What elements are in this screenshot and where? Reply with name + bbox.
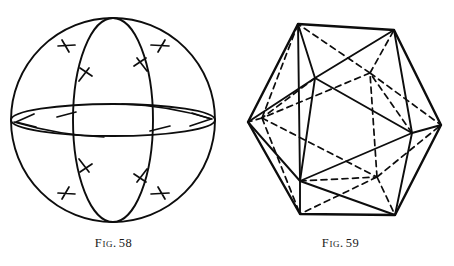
icosahedron-visible-edges [248, 24, 441, 215]
figure-59-caption-number: 59 [344, 236, 359, 250]
tick-outline-upper-left [58, 40, 75, 52]
figure-58-caption-number: 58 [117, 236, 132, 250]
visible-edge-front-1 [315, 78, 412, 133]
hidden-edge-f2-b1 [370, 73, 412, 133]
figure-58: Fig.58 [0, 0, 227, 266]
tick-outline-lower-right [151, 187, 169, 199]
sphere-meridian-ellipse [73, 18, 153, 222]
sphere-tick-group-equator [16, 112, 211, 131]
figure-58-caption: Fig.58 [0, 236, 227, 251]
tick-meridian-upper-left [79, 68, 92, 81]
visible-edge-f2-v2 [394, 30, 412, 133]
icosahedron-hidden-edges [248, 24, 441, 215]
hidden-edge-back-3 [370, 73, 377, 177]
tick-equator-right-arrow [190, 113, 211, 126]
visible-edge-f1-v1 [298, 24, 315, 78]
figure-59-caption: Fig.59 [227, 236, 454, 251]
figure-58-caption-word: Fig. [95, 236, 117, 250]
sphere-outline-circle [11, 18, 215, 222]
hidden-edge-back-1 [262, 73, 370, 118]
figure-59: Fig.59 [227, 0, 454, 266]
plate-page: Fig.58 [0, 0, 454, 266]
tick-equator-left-arrow [16, 114, 36, 127]
hidden-edge-f3-b3 [300, 177, 377, 181]
icosahedron-silhouette [248, 24, 441, 215]
tick-outline-upper-right [151, 40, 169, 52]
visible-edge-front-2 [300, 133, 412, 181]
figure-58-drawing [0, 0, 227, 232]
visible-edge-v1-f3-strut [298, 24, 300, 181]
visible-edge-f3-v6 [248, 122, 300, 181]
hidden-edge-back-2 [262, 118, 377, 177]
sphere-equator-ellipse [11, 104, 215, 136]
silhouette-hexagon [248, 24, 441, 215]
tick-meridian-lower-left [79, 159, 92, 172]
visible-edge-front-3 [300, 78, 315, 181]
figure-59-drawing [227, 0, 454, 232]
figure-59-caption-word: Fig. [322, 236, 344, 250]
tick-outline-lower-left [58, 187, 75, 199]
visible-edge-f2-v4 [395, 133, 412, 215]
hidden-edge-b2-v5 [262, 118, 300, 214]
visible-edge-f1-v2 [315, 30, 394, 78]
sphere-tick-group-meridian [79, 58, 147, 182]
